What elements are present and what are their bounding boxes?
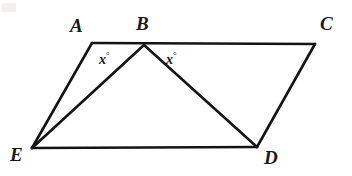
segment-a-c <box>92 43 315 44</box>
angle-label-abe: x° <box>99 51 110 67</box>
segment-e-b <box>32 45 144 148</box>
segment-b-d <box>144 45 257 147</box>
vertex-label-c: C <box>320 14 333 33</box>
figure-canvas <box>0 0 352 176</box>
angle-label-dbc: x° <box>166 51 177 67</box>
segment-d-c <box>257 44 315 147</box>
segment-e-a <box>32 43 92 148</box>
geometry-figure: A B C D E x° x° <box>0 0 352 176</box>
segment-e-d <box>32 147 257 148</box>
vertex-label-a: A <box>70 16 83 35</box>
degree-symbol-abe: ° <box>106 50 110 60</box>
angle-value-dbc: x <box>166 52 173 67</box>
vertex-label-b: B <box>136 14 149 33</box>
angle-value-abe: x <box>99 52 106 67</box>
vertex-label-d: D <box>264 148 278 167</box>
vertex-label-e: E <box>10 145 23 164</box>
degree-symbol-dbc: ° <box>173 50 177 60</box>
